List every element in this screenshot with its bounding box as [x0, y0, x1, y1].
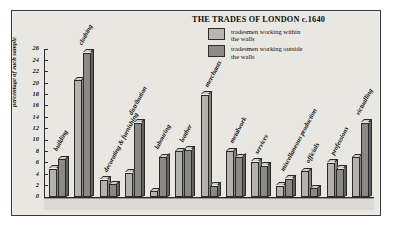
bar-face-front	[210, 186, 218, 197]
bar	[301, 171, 309, 197]
bar-face-front	[260, 166, 268, 197]
y-tick-label: 20	[33, 79, 39, 86]
bar-face-front	[184, 150, 192, 197]
bar-face-front	[58, 159, 66, 197]
bar-face-front	[336, 169, 344, 197]
bar-group: merchants	[196, 49, 221, 197]
y-tick-label: 14	[33, 113, 39, 120]
bar-face-side	[293, 175, 296, 197]
bar	[134, 123, 142, 197]
bar-face-front	[83, 53, 91, 197]
chart-floor	[44, 198, 374, 210]
category-label: services	[253, 133, 269, 155]
legend-label-within-line1: tradesmen working within	[231, 28, 300, 35]
y-tick-label: 10	[33, 135, 39, 142]
bar	[100, 180, 108, 197]
bar-face-front	[226, 151, 234, 197]
legend-swatch-within	[208, 28, 225, 40]
bar-face-side	[142, 119, 145, 197]
legend-item-within: tradesmen working within the walls	[190, 28, 374, 42]
bar-group: building	[45, 49, 70, 197]
y-tick-label: 26	[33, 44, 39, 51]
bar-group: clothing	[70, 49, 95, 197]
bar	[125, 173, 133, 197]
bar-face-side	[243, 154, 246, 197]
legend-label-within: tradesmen working within the walls	[231, 28, 300, 42]
category-label: officials	[304, 142, 320, 165]
bar-face-side	[167, 154, 170, 197]
bar-face-front	[251, 162, 259, 197]
bar-group: miscellaneous production	[272, 49, 297, 197]
bar-face-front	[100, 180, 108, 197]
y-tick-label: 8	[36, 147, 39, 154]
bar	[276, 186, 284, 197]
y-tick-label: 6	[36, 158, 39, 165]
y-tick-label: 16	[33, 101, 39, 108]
category-label: merchants	[203, 59, 223, 88]
bar	[58, 159, 66, 197]
bar-face-side	[218, 182, 221, 197]
bar-face-front	[74, 80, 82, 197]
bar	[235, 157, 243, 197]
y-tick-label: 12	[33, 124, 39, 131]
category-label: metalwork	[228, 116, 248, 145]
bar	[184, 150, 192, 197]
category-label: building	[51, 129, 68, 152]
bar	[175, 151, 183, 197]
legend-label-within-line2: the walls	[231, 35, 300, 42]
bar-face-side	[91, 49, 94, 197]
bar-group: officials	[297, 49, 322, 197]
y-tick-label: 22	[33, 67, 39, 74]
bar	[310, 188, 318, 197]
bar	[83, 53, 91, 197]
bar	[336, 169, 344, 197]
bar-face-front	[150, 191, 158, 197]
bar-face-side	[344, 165, 347, 197]
bar-face-front	[361, 123, 369, 197]
bar-face-front	[235, 157, 243, 197]
bar	[260, 166, 268, 197]
y-tick-label: 0	[36, 192, 39, 199]
bar	[159, 157, 167, 197]
bar-face-front	[159, 157, 167, 197]
bar-group: leather	[171, 49, 196, 197]
bar-group: distribution	[121, 49, 146, 197]
bar	[109, 184, 117, 197]
bar	[327, 163, 335, 197]
bar-group: victualling	[348, 49, 373, 197]
bar-group: decorating & furnishing	[95, 49, 120, 197]
bar-face-side	[268, 162, 271, 197]
bar	[201, 95, 209, 197]
bar-face-side	[209, 91, 212, 197]
bar	[251, 162, 259, 197]
bar	[49, 169, 57, 197]
bar	[226, 151, 234, 197]
bar-face-front	[310, 188, 318, 197]
bar-group: metalwork	[222, 49, 247, 197]
bar-face-side	[117, 181, 120, 197]
bar-face-front	[134, 123, 142, 197]
bar	[352, 157, 360, 197]
bar	[74, 80, 82, 197]
chart-figure: THE TRADES OF LONDON c.1640 tradesmen wo…	[11, 10, 381, 216]
bar-group: professions	[323, 49, 348, 197]
bar-face-front	[301, 171, 309, 197]
bar-face-front	[285, 179, 293, 197]
bar-face-front	[175, 151, 183, 197]
bar-plot-area: buildingclothingdecorating & furnishingd…	[45, 49, 373, 197]
bar-face-front	[125, 173, 133, 197]
bar-face-front	[109, 184, 117, 197]
bar-face-front	[49, 169, 57, 197]
category-label: professions	[329, 125, 350, 155]
bar-face-side	[318, 185, 321, 197]
bar-group: labouring	[146, 49, 171, 197]
category-label: leather	[178, 123, 193, 143]
y-tick-label: 18	[33, 90, 39, 97]
category-label: victualling	[354, 87, 374, 116]
y-tick-label: 2	[36, 181, 39, 188]
y-axis-ticks: 26242220181614121086420	[34, 49, 44, 197]
bar-face-front	[201, 95, 209, 197]
bar-face-side	[192, 146, 195, 197]
bar	[150, 191, 158, 197]
bar-face-front	[352, 157, 360, 197]
